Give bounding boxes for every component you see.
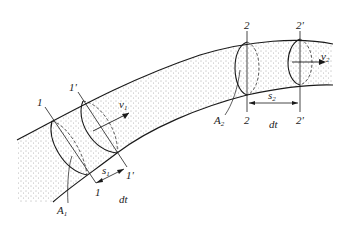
label-section-2-prime-bottom: 2'	[296, 114, 305, 126]
label-section-2-prime: 2'	[296, 19, 305, 31]
label-displacement-2: s2	[268, 89, 276, 103]
displacement-2-arrowhead-right	[292, 101, 298, 105]
label-section-2: 2	[244, 19, 250, 31]
streamtube-diagram: 1 1' 1 1' dt v1 s1 A1 2 2' 2 2' dt v2 s2…	[0, 0, 344, 227]
stream-tube-fill	[17, 40, 333, 202]
label-displacement-1: s1	[102, 164, 110, 178]
displacement-1-arrowhead-right	[117, 169, 124, 174]
displacement-2-arrowhead-left	[249, 101, 255, 105]
label-section-1: 1	[37, 96, 43, 108]
label-area-2: A2	[213, 114, 225, 128]
label-section-1-prime-bottom: 1'	[126, 169, 135, 181]
label-time-2: dt	[269, 118, 279, 130]
label-section-1-bottom: 1	[95, 186, 101, 198]
displacement-1-arrowhead-left	[96, 178, 103, 183]
label-time-1: dt	[119, 193, 129, 205]
label-section-1-prime: 1'	[69, 81, 78, 93]
label-area-1: A1	[56, 204, 67, 218]
label-section-2-bottom: 2	[244, 114, 250, 126]
